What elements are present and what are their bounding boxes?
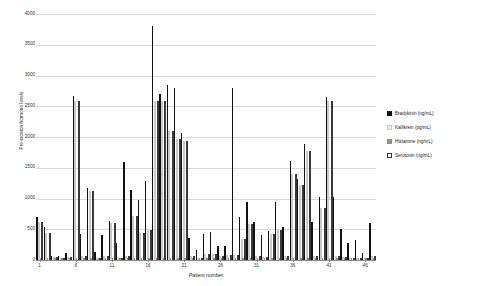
bar-group [311, 14, 317, 260]
bar-group [282, 14, 288, 260]
bar-group [326, 14, 332, 260]
bar-group [181, 14, 187, 260]
bar-group [80, 14, 86, 260]
y-tick-label: 4000 [1, 12, 35, 17]
bar-group [58, 14, 64, 260]
legend: Bradykinin (ng/mL)Kallikrein (pg/mL)Hist… [387, 106, 477, 162]
bar-kalli [327, 101, 329, 260]
x-tick-mark [76, 260, 77, 262]
bar-group [44, 14, 50, 260]
bar-kalli [38, 222, 40, 260]
bar-group [217, 14, 223, 260]
bar-brady [369, 223, 370, 260]
bar-kalli [154, 101, 156, 260]
bar-kalli [299, 185, 301, 260]
bar-group [253, 14, 259, 260]
bar-brady [333, 197, 334, 260]
x-tick-label: 31 [254, 263, 259, 268]
bar-group [65, 14, 71, 260]
legend-swatch-icon [387, 153, 392, 158]
legend-swatch-icon [387, 111, 392, 116]
bar-group [123, 14, 129, 260]
x-tick-mark [184, 260, 185, 262]
bar-kalli [306, 151, 308, 260]
bar-group [246, 14, 252, 260]
bar-brady [123, 162, 124, 260]
x-tick-label: 26 [218, 263, 223, 268]
x-tick-label: 1 [38, 263, 41, 268]
bar-group [304, 14, 310, 260]
x-tick-mark [148, 260, 149, 262]
bar-brady [282, 227, 283, 260]
x-axis: 161116212631364146 [36, 260, 376, 272]
y-tick-label: 500 [1, 227, 35, 232]
x-tick-label: 6 [75, 263, 78, 268]
bar-brady [253, 222, 254, 260]
x-tick-label: 41 [326, 263, 331, 268]
legend-label: Histamine (ng/mL) [395, 139, 433, 144]
x-tick-label: 36 [290, 263, 295, 268]
bar-group [196, 14, 202, 260]
bar-group [347, 14, 353, 260]
bar-group [210, 14, 216, 260]
bar-kalli [320, 208, 322, 260]
bar-group [167, 14, 173, 260]
x-axis-title: Patient number [36, 272, 376, 278]
x-tick-mark [329, 260, 330, 262]
bar-group [297, 14, 303, 260]
y-tick-label: 3500 [1, 42, 35, 47]
bar-group [290, 14, 296, 260]
legend-label: Bradykinin (ng/mL) [395, 111, 434, 116]
bar-group [369, 14, 375, 260]
bar-kalli [132, 216, 134, 260]
x-tick-mark [365, 260, 366, 262]
bar-kalli [147, 230, 149, 260]
bar-kalli [161, 101, 163, 260]
bar-group [101, 14, 107, 260]
bar-group [275, 14, 281, 260]
bar-group [203, 14, 209, 260]
x-tick-label: 46 [363, 263, 368, 268]
x-tick-mark [40, 260, 41, 262]
bar-kalli [168, 131, 170, 260]
bar-kalli [277, 230, 279, 260]
bar-kalli [139, 233, 141, 260]
x-tick-mark [220, 260, 221, 262]
x-tick-mark [293, 260, 294, 262]
legend-item[interactable]: Histamine (ng/mL) [387, 134, 477, 148]
bar-kalli [291, 174, 293, 260]
bar-group [116, 14, 122, 260]
plot-area: 05001000150020002500300035004000 [36, 14, 376, 260]
bar-group [130, 14, 136, 260]
x-tick-label: 21 [182, 263, 187, 268]
y-tick-label: 0 [1, 258, 35, 263]
bar-group [261, 14, 267, 260]
y-tick-label: 1000 [1, 196, 35, 201]
bar-kalli [248, 224, 250, 260]
legend-item[interactable]: Kallikrein (pg/mL) [387, 120, 477, 134]
bar-kalli [89, 191, 91, 260]
legend-swatch-icon [387, 139, 392, 144]
legend-swatch-icon [387, 125, 392, 130]
bar-group [159, 14, 165, 260]
bar-group [138, 14, 144, 260]
bar-group [94, 14, 100, 260]
x-tick-mark [112, 260, 113, 262]
bar-group [355, 14, 361, 260]
bar-group [333, 14, 339, 260]
legend-item[interactable]: Bradykinin (ng/mL) [387, 106, 477, 120]
bar-kalli [45, 233, 47, 260]
y-tick-label: 1500 [1, 165, 35, 170]
legend-label: Serotonin (ng/mL) [395, 153, 432, 158]
legend-label: Kallikrein (pg/mL) [395, 125, 431, 130]
x-tick-label: 16 [146, 263, 151, 268]
bar-group [109, 14, 115, 260]
bar-group [268, 14, 274, 260]
legend-item[interactable]: Serotonin (ng/mL) [387, 148, 477, 162]
y-tick-label: 2500 [1, 104, 35, 109]
bar-group [224, 14, 230, 260]
bar-kalli [110, 223, 112, 260]
x-tick-label: 11 [110, 263, 115, 268]
y-tick-label: 3000 [1, 73, 35, 78]
bar-group [73, 14, 79, 260]
